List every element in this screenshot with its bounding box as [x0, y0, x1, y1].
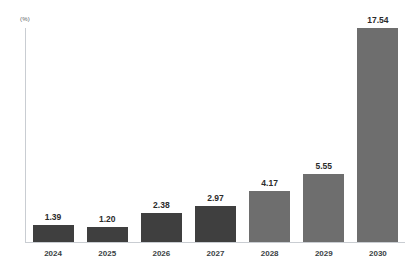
- bar-group[interactable]: 1.39: [33, 28, 74, 242]
- x-axis-tick-label: 2027: [188, 248, 242, 260]
- x-axis-tick-label: 2029: [297, 248, 351, 260]
- bar-group[interactable]: 5.55: [303, 28, 344, 242]
- x-axis-line: [25, 242, 405, 243]
- y-axis-unit-label: (%): [20, 15, 30, 23]
- x-axis-tick-label: 2025: [80, 248, 134, 260]
- bar[interactable]: [87, 227, 128, 242]
- x-axis-tick-labels: 2024202520262027202820292030: [26, 248, 405, 262]
- bar-group[interactable]: 17.54: [357, 28, 398, 242]
- x-axis-tick-label: 2024: [26, 248, 80, 260]
- bar[interactable]: [303, 174, 344, 242]
- bar-value-label: 4.17: [249, 178, 290, 188]
- bar-value-label: 17.54: [357, 15, 398, 25]
- bar-value-label: 1.39: [33, 212, 74, 222]
- bar-group[interactable]: 4.17: [249, 28, 290, 242]
- plot-area: 1.391.202.382.974.175.5517.54: [26, 28, 405, 242]
- bar-value-label: 5.55: [303, 161, 344, 171]
- x-axis-tick-label: 2026: [134, 248, 188, 260]
- bar[interactable]: [33, 225, 74, 242]
- bar-group[interactable]: 1.20: [87, 28, 128, 242]
- bar[interactable]: [195, 206, 236, 242]
- x-axis-tick-label: 2028: [243, 248, 297, 260]
- bar-group[interactable]: 2.97: [195, 28, 236, 242]
- bar[interactable]: [141, 213, 182, 242]
- x-axis-tick-label: 2030: [351, 248, 405, 260]
- bar-value-label: 2.97: [195, 193, 236, 203]
- bar-value-label: 2.38: [141, 200, 182, 210]
- bar-chart: (%) 1.391.202.382.974.175.5517.54 202420…: [0, 0, 416, 273]
- bar-value-label: 1.20: [87, 214, 128, 224]
- bar[interactable]: [249, 191, 290, 242]
- bar[interactable]: [357, 28, 398, 242]
- bar-group[interactable]: 2.38: [141, 28, 182, 242]
